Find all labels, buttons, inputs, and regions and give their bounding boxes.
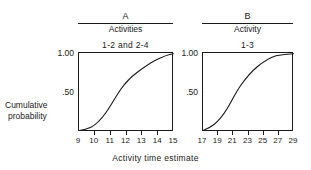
y-tick-label-b-50: .50 xyxy=(166,87,198,97)
cumulative-curve-b xyxy=(203,53,294,132)
plot-box-b xyxy=(202,52,293,131)
x-tick-b-4 xyxy=(263,131,264,135)
x-tick-b-5 xyxy=(278,131,279,135)
cumulative-curve-a xyxy=(79,53,174,132)
panel-title-a: 1-2 and 2-4 xyxy=(78,40,173,50)
x-tick-b-3 xyxy=(248,131,249,135)
x-tick-label-b-29: 29 xyxy=(283,136,303,145)
group-letter-a: A xyxy=(78,11,173,21)
panel-title-b: 1-3 xyxy=(202,40,293,50)
group-sublabel-a: Activities xyxy=(78,24,173,34)
y-tick-label-a-50: .50 xyxy=(40,87,74,97)
x-tick-a-1 xyxy=(94,131,95,135)
figure-canvas: A Activities B Activity 1-2 and 2-4 1.00… xyxy=(0,0,311,170)
y-tick-label-b-100: 1.00 xyxy=(166,48,198,58)
x-tick-a-5 xyxy=(157,131,158,135)
x-tick-a-2 xyxy=(110,131,111,135)
group-letter-b: B xyxy=(202,11,293,21)
x-tick-label-a-15: 15 xyxy=(163,136,183,145)
y-axis-title-line2: probability xyxy=(8,111,47,122)
y-tick-label-a-100: 1.00 xyxy=(40,48,74,58)
x-tick-b-1 xyxy=(217,131,218,135)
group-sublabel-b: Activity xyxy=(202,24,293,34)
x-tick-b-2 xyxy=(232,131,233,135)
x-axis-title: Activity time estimate xyxy=(0,153,311,163)
x-tick-a-4 xyxy=(141,131,142,135)
plot-box-a xyxy=(78,52,173,131)
x-tick-a-3 xyxy=(126,131,127,135)
y-axis-title-line1: Cumulative xyxy=(5,100,48,111)
